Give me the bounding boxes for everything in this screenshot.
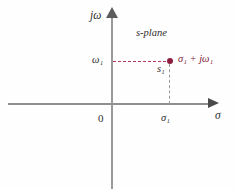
origin-label: 0 [98,113,104,124]
real-axis-label: σ [215,110,221,122]
real-tick-label: σ₁ [161,113,170,124]
pole-point-marker [167,58,173,64]
s-plane-region-label: s-plane [136,28,167,39]
pole-point-label: s₁ [157,64,165,75]
imaginary-axis-arrowhead-icon [106,7,118,18]
imaginary-tick-label: ω₁ [92,55,103,66]
real-axis-line [8,103,213,105]
horizontal-projection-dashed-line [113,61,171,62]
imaginary-axis-line [111,14,113,189]
real-axis-arrowhead-icon [208,98,219,108]
imaginary-axis-label: jω [90,10,101,22]
pole-coordinate-label: σ₁ + jω₁ [178,54,213,65]
vertical-projection-dashed-line [169,64,170,104]
s-plane-figure: jω s-plane ω₁ s₁ σ₁ + jω₁ 0 σ₁ σ [0,0,235,189]
